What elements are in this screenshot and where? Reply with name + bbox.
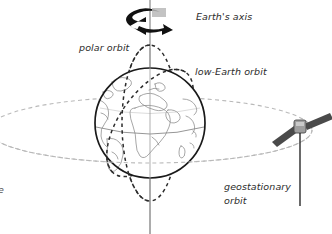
label-cropped-edge: e <box>0 184 4 195</box>
satellite-body-highlight <box>296 122 304 126</box>
label-geostationary-orbit-line2: orbit <box>224 195 248 206</box>
label-polar-orbit: polar orbit <box>78 42 131 53</box>
orbit-diagram: Earth's axis polar orbit low-Earth orbit… <box>0 0 332 234</box>
satellite-body <box>294 120 306 133</box>
label-low-earth-orbit: low-Earth orbit <box>195 66 268 77</box>
label-earth-axis: Earth's axis <box>196 11 252 22</box>
rotation-arrow-highlight <box>152 8 166 17</box>
label-geostationary-orbit-line1: geostationary <box>224 181 291 192</box>
